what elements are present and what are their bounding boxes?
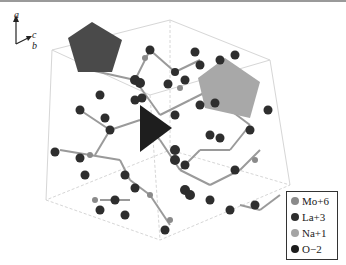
o-dot-icon [291, 245, 299, 253]
dark-polyhedron-top-left [68, 22, 122, 72]
axis-b-label: b [32, 40, 37, 51]
axis-a-label: a [14, 9, 19, 20]
legend-item-la: La+3 [291, 210, 325, 224]
light-polyhedron-right [198, 58, 260, 118]
axis-c-label: c [32, 29, 36, 40]
legend-item-na: Na+1 [291, 226, 327, 240]
legend-item-o: O−2 [291, 242, 322, 256]
legend: Mo+6 La+3 Na+1 O−2 [286, 191, 338, 260]
la-dot-icon [291, 213, 299, 221]
axis-indicator: a c b [8, 12, 48, 57]
mo-dot-icon [291, 197, 299, 205]
na-dot-icon [291, 229, 299, 237]
legend-item-mo: Mo+6 [291, 194, 329, 208]
